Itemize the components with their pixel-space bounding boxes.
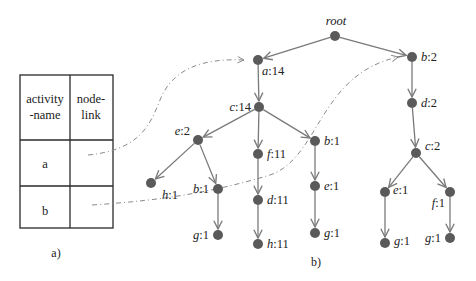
node-dot [380,238,390,248]
node-label: g:1 [394,234,410,248]
tree-node: g:1 [425,231,455,245]
node-label: g:1 [324,226,340,240]
node-dot [213,230,223,240]
caption-a: a) [51,246,60,260]
node-label: b:2 [421,50,437,64]
node-label: d:11 [267,193,289,207]
tree-edge [264,37,330,58]
header-table: activity -name node- link a b a) [20,75,113,260]
tree-edge [258,112,259,148]
tree-edge [412,108,415,147]
node-dot [310,228,320,238]
header-node-link-line1: node- [77,92,105,106]
node-dot [146,178,156,188]
node-dot [253,149,263,159]
tree-edge [155,143,194,179]
node-label: b:1 [324,134,340,148]
node-dot [253,239,263,249]
node-dot [411,148,421,158]
node-dot [193,135,203,145]
table-cell-activity-b: b [42,204,48,218]
node-label: e:2 [175,124,190,138]
node-label: b:1 [193,182,209,196]
tree-node: b:1 [310,134,340,148]
tree-node: d:11 [253,193,289,207]
tree-node: f:11 [253,147,286,161]
node-label: g:1 [425,231,441,245]
tree-node: h:11 [253,237,289,251]
table-cell-activity-a: a [42,157,48,171]
node-label: e:1 [393,183,408,197]
tree-edge [263,110,310,138]
node-label: g:1 [193,228,209,242]
tree-node: g:1 [310,226,340,240]
node-dot [407,98,417,108]
tree-node: b:1 [193,182,223,196]
node-label: h:1 [162,188,178,202]
node-dot [310,181,320,191]
tree-edge [340,37,406,55]
node-label: e:1 [324,179,339,193]
node-links [88,57,398,205]
node-dot [330,31,340,41]
node-dot [445,233,455,243]
tree-node: e:1 [310,179,339,193]
node-dot [445,187,455,197]
tree-node: g:1 [193,228,223,242]
node-dot [213,184,223,194]
tree-edge [258,65,259,101]
header-activity-name-line1: activity [26,92,64,106]
node-dot [310,136,320,146]
tree-node: d:2 [407,96,437,110]
header-activity-name-line2: -name [29,108,61,122]
node-label: d:2 [421,96,437,110]
tree-nodes: a:14b:2c:14d:2e:2f:11b:1c:2h:1b:1d:11e:1… [146,31,455,251]
node-link-a [88,60,244,155]
tree-edge [419,157,446,188]
fp-tree-figure: activity -name node- link a b a) a:14b:2… [0,0,476,281]
tree-node: e:1 [380,183,408,197]
node-dot [253,195,263,205]
node-link-b [92,57,398,205]
node-dot [380,187,390,197]
tree-node: c:14 [229,100,264,114]
caption-b: b) [311,255,321,269]
tree-root-node [330,31,340,41]
header-node-link-line2: link [81,108,101,122]
tree-edge [200,145,216,184]
node-dot [254,102,264,112]
node-label: f:11 [267,147,286,161]
tree-node: b:2 [407,50,437,64]
node-label: c:2 [425,139,440,153]
node-label: h:11 [267,237,289,251]
node-dot [407,52,417,62]
node-label: f:1 [432,196,445,210]
node-label: c:14 [229,100,251,114]
root-label: root [326,14,347,28]
tree-node: e:2 [175,124,203,145]
tree-node: h:1 [146,178,178,202]
node-label: a:14 [262,64,285,78]
tree-node: f:1 [432,187,455,210]
